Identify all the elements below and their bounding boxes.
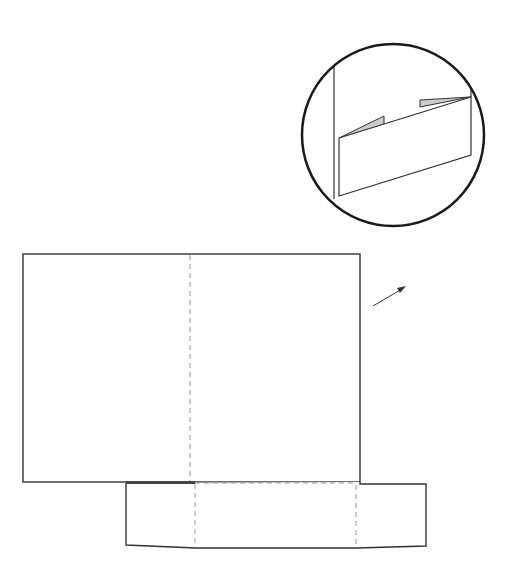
bottom-strip-outline bbox=[126, 482, 426, 548]
folding-diagram bbox=[0, 0, 506, 571]
main-panel bbox=[23, 254, 360, 482]
bottom-strip bbox=[126, 482, 426, 548]
direction-arrow-icon bbox=[373, 286, 406, 306]
pocket-panel bbox=[339, 97, 471, 196]
detail-circle bbox=[302, 40, 484, 226]
main-panel-outline bbox=[23, 254, 360, 482]
